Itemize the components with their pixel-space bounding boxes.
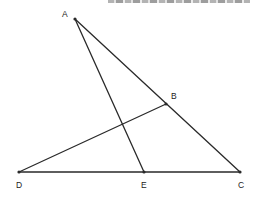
label-B: B	[171, 91, 177, 101]
point-A	[73, 17, 76, 20]
label-C: C	[238, 180, 244, 190]
points	[17, 17, 241, 173]
point-D	[17, 170, 20, 173]
segment-DB	[19, 104, 166, 172]
segment-AE	[75, 19, 144, 172]
geometry-figure: A B C D E	[0, 0, 254, 200]
point-C	[238, 170, 241, 173]
point-B	[164, 102, 167, 105]
segment-AC	[75, 19, 240, 172]
label-E: E	[141, 180, 147, 190]
point-labels: A B C D E	[16, 9, 244, 190]
label-A: A	[62, 9, 68, 19]
segments	[19, 19, 240, 172]
point-E	[142, 170, 145, 173]
label-D: D	[16, 180, 22, 190]
